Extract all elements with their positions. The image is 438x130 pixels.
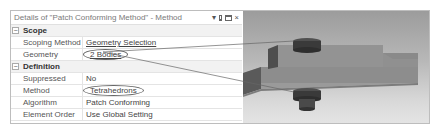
property-value[interactable]: 2 Bodies [83, 49, 242, 60]
pin-icon[interactable] [219, 15, 222, 21]
property-label: Method [20, 85, 83, 96]
property-row-geometry[interactable]: Geometry 2 Bodies [11, 49, 242, 61]
section-label: Definition [20, 62, 60, 71]
dropdown-icon[interactable]: ▾ [212, 13, 216, 22]
property-label: Geometry [20, 49, 83, 60]
method-value[interactable]: Tetrahedrons [90, 86, 137, 95]
property-label: Algorithm [20, 97, 83, 108]
property-value[interactable]: Use Global Setting [83, 109, 242, 120]
details-titlebar: Details of "Patch Conforming Method" - M… [11, 11, 242, 25]
details-panel: Details of "Patch Conforming Method" - M… [11, 11, 242, 123]
graphics-viewport[interactable] [243, 11, 429, 123]
property-value[interactable]: Patch Conforming [83, 97, 242, 108]
section-definition[interactable]: − Definition [11, 61, 242, 73]
property-value[interactable]: Tetrahedrons [83, 85, 242, 96]
section-label: Scope [20, 26, 47, 35]
property-row-scoping-method[interactable]: Scoping Method Geometry Selection [11, 37, 242, 49]
property-row-method[interactable]: Method Tetrahedrons [11, 85, 242, 97]
property-row-suppressed[interactable]: Suppressed No [11, 73, 242, 85]
close-icon[interactable]: × [235, 13, 239, 22]
section-scope[interactable]: − Scope [11, 25, 242, 37]
property-label: Element Order [20, 109, 83, 120]
property-label: Suppressed [20, 73, 83, 84]
maximize-icon[interactable] [225, 15, 232, 21]
figure-frame: Details of "Patch Conforming Method" - M… [10, 10, 430, 124]
properties-grid: − Scope Scoping Method Geometry Selectio… [11, 25, 242, 121]
property-row-algorithm[interactable]: Algorithm Patch Conforming [11, 97, 242, 109]
highlight-ellipse: 2 Bodies [83, 49, 128, 60]
collapse-icon[interactable]: − [12, 63, 19, 70]
property-value[interactable]: No [83, 73, 242, 84]
model-render [243, 11, 429, 123]
property-label: Scoping Method [20, 37, 83, 48]
scoping-method-value[interactable]: Geometry Selection [86, 38, 156, 47]
collapse-icon[interactable]: − [12, 27, 19, 34]
highlight-ellipse: Tetrahedrons [83, 85, 144, 96]
property-row-element-order[interactable]: Element Order Use Global Setting [11, 109, 242, 121]
details-title: Details of "Patch Conforming Method" - M… [14, 13, 212, 22]
property-value[interactable]: Geometry Selection [83, 37, 242, 48]
geometry-value[interactable]: 2 Bodies [90, 50, 121, 59]
window-controls: ▾ × [212, 13, 242, 22]
